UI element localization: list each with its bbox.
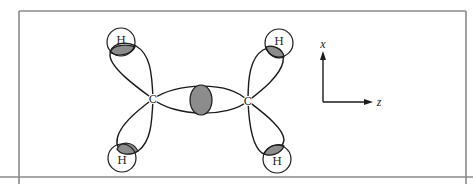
hydrogen-top-left: H <box>107 28 135 56</box>
cc-overlap-region <box>190 85 212 115</box>
carbon-carbon-sigma-bond <box>153 85 248 115</box>
carbon-label: C <box>244 95 252 108</box>
z-axis-label: z <box>376 95 382 109</box>
carbon-left: C <box>148 93 158 106</box>
hydrogen-label: H <box>272 155 282 168</box>
diagram-frame <box>0 11 473 184</box>
hydrogen-bottom-left: H <box>108 143 138 172</box>
x-axis-arrowhead-icon <box>320 51 326 60</box>
hydrogen-label: H <box>117 154 127 167</box>
x-axis-label: x <box>319 37 326 51</box>
hydrogen-top-right: H <box>265 29 293 58</box>
z-axis-arrowhead-icon <box>364 99 373 105</box>
carbon-label: C <box>149 93 157 106</box>
carbon-right: C <box>243 95 253 108</box>
ethylene-sigma-bond-diagram: H H H H C C x z <box>0 0 473 184</box>
right-carbon-hybrid-orbitals <box>248 48 284 155</box>
hydrogen-label: H <box>116 34 126 47</box>
left-carbon-hybrid-orbitals <box>110 43 153 153</box>
hydrogen-label: H <box>274 35 284 48</box>
coordinate-axes: x z <box>319 37 381 109</box>
hydrogen-bottom-right: H <box>263 145 291 173</box>
